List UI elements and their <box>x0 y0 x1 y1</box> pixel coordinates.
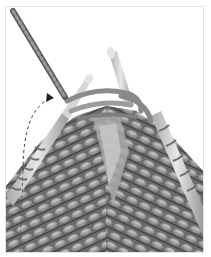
knitted-fabric <box>6 106 203 252</box>
knitting-photo <box>6 7 203 252</box>
working-yarn <box>13 11 65 97</box>
photo-frame <box>5 6 204 253</box>
